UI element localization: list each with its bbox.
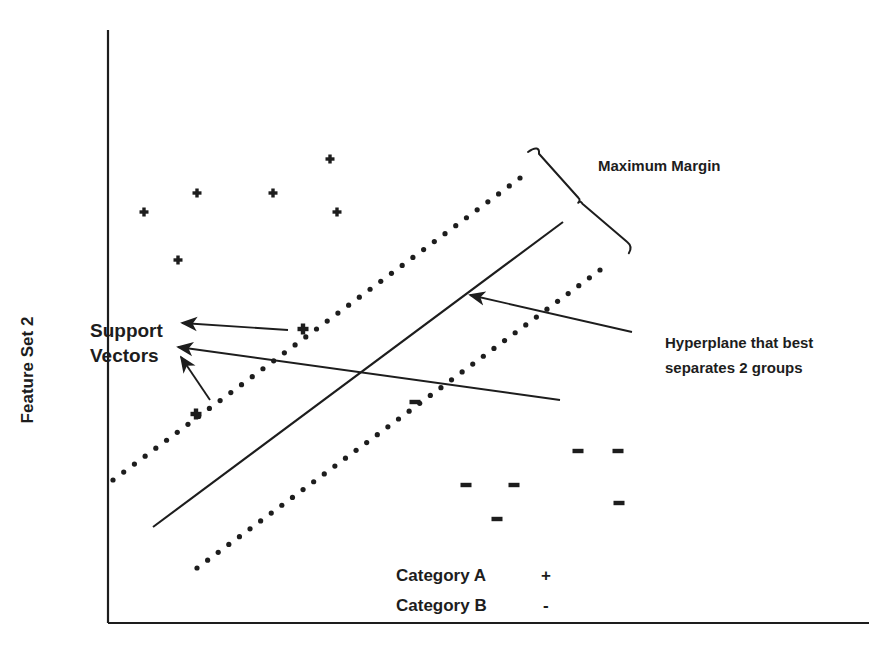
- margin-dot: [432, 239, 437, 244]
- support-vectors-label-line2: Vectors: [90, 345, 159, 366]
- margin-dot: [132, 462, 137, 467]
- plus-bar-v: [271, 189, 274, 198]
- margin-dot: [346, 303, 351, 308]
- margin-dot: [385, 424, 390, 429]
- plus-marker: [333, 208, 342, 217]
- margin-dot: [300, 487, 305, 492]
- plus-marker: [298, 324, 309, 335]
- margin-dot: [247, 526, 252, 531]
- plus-bar-v: [176, 256, 179, 265]
- margin-dot: [216, 550, 221, 555]
- margin-dot: [282, 350, 287, 355]
- margin-dot: [367, 287, 372, 292]
- legend-item-glyph-1: -: [543, 596, 549, 615]
- margin-dot: [226, 542, 231, 547]
- margin-dot: [507, 183, 512, 188]
- margin-dot: [513, 330, 518, 335]
- minus-marker: [613, 449, 624, 453]
- margin-dot: [250, 374, 255, 379]
- minus-marker: [492, 517, 503, 521]
- margin-dot: [475, 207, 480, 212]
- margin-dot: [428, 393, 433, 398]
- margin-dot: [153, 446, 158, 451]
- margin-dot: [389, 271, 394, 276]
- margin-lines: [110, 175, 602, 570]
- margin-dot: [239, 382, 244, 387]
- margin-dot: [185, 422, 190, 427]
- margin-dot: [378, 279, 383, 284]
- margin-dot: [143, 454, 148, 459]
- minus-marker: [614, 501, 625, 505]
- margin-dot: [207, 406, 212, 411]
- margin-dot: [322, 471, 327, 476]
- margin-dot: [353, 448, 358, 453]
- support-vector-arrow-middle: [178, 347, 560, 400]
- hyperplane-line: [153, 222, 563, 527]
- margin-dot: [260, 366, 265, 371]
- margin-dot: [164, 438, 169, 443]
- margin-dot: [453, 223, 458, 228]
- maximum-margin-label: Maximum Margin: [598, 157, 721, 174]
- margin-dot: [481, 354, 486, 359]
- margin-dot: [279, 503, 284, 508]
- plus-marker: [174, 256, 183, 265]
- margin-dot: [269, 511, 274, 516]
- plus-bar-v: [335, 208, 338, 217]
- margin-dot: [325, 318, 330, 323]
- plus-bar-v: [142, 208, 145, 217]
- margin-dot: [364, 440, 369, 445]
- margin-dot: [375, 432, 380, 437]
- legend-item-glyph-0: +: [541, 566, 551, 585]
- margin-dot: [410, 255, 415, 260]
- margin-dot: [407, 409, 412, 414]
- margin-dot: [292, 342, 297, 347]
- margin-dot: [194, 565, 199, 570]
- plus-bar-v: [195, 189, 198, 198]
- svm-diagram: Feature Set 2 Maximum Margin Hyperplane …: [0, 0, 869, 659]
- margin-dot: [228, 390, 233, 395]
- margin-dot: [576, 283, 581, 288]
- plus-marker: [140, 208, 149, 217]
- legend: Category A + Category B -: [396, 566, 551, 615]
- margin-dot: [460, 369, 465, 374]
- y-axis-label: Feature Set 2: [18, 317, 37, 424]
- support-vectors-label-line1: Support: [90, 320, 163, 341]
- lower-margin: [194, 267, 602, 570]
- legend-item-label-1: Category B: [396, 596, 487, 615]
- minus-marker: [509, 483, 520, 487]
- margin-dot: [357, 295, 362, 300]
- minus-marker: [410, 400, 421, 404]
- margin-dot: [332, 463, 337, 468]
- plus-marker: [326, 155, 335, 164]
- margin-dot: [496, 191, 501, 196]
- margin-dot: [400, 263, 405, 268]
- margin-dot: [258, 518, 263, 523]
- margin-dot: [311, 479, 316, 484]
- legend-item-label-0: Category A: [396, 566, 486, 585]
- category-b-markers: [410, 400, 625, 521]
- margin-dot: [421, 247, 426, 252]
- margin-dot: [343, 456, 348, 461]
- margin-dot: [534, 314, 539, 319]
- plus-marker: [269, 189, 278, 198]
- margin-dot: [205, 558, 210, 563]
- margin-dot: [485, 199, 490, 204]
- margin-dot: [517, 175, 522, 180]
- margin-dot: [464, 215, 469, 220]
- upper-margin: [110, 175, 522, 482]
- margin-dot: [544, 307, 549, 312]
- margin-dot: [110, 477, 115, 482]
- margin-dot: [597, 267, 602, 272]
- diagram-canvas: Feature Set 2 Maximum Margin Hyperplane …: [0, 0, 869, 659]
- margin-dot: [470, 362, 475, 367]
- margin-dot: [314, 326, 319, 331]
- hyperplane-label-line2: separates 2 groups: [665, 359, 803, 376]
- margin-dot: [218, 398, 223, 403]
- margin-dot: [491, 346, 496, 351]
- margin-dot: [335, 311, 340, 316]
- margin-dot: [303, 334, 308, 339]
- plus-marker: [193, 189, 202, 198]
- margin-dot: [523, 322, 528, 327]
- margin-dot: [290, 495, 295, 500]
- hyperplane-label-line1: Hyperplane that best: [665, 334, 813, 351]
